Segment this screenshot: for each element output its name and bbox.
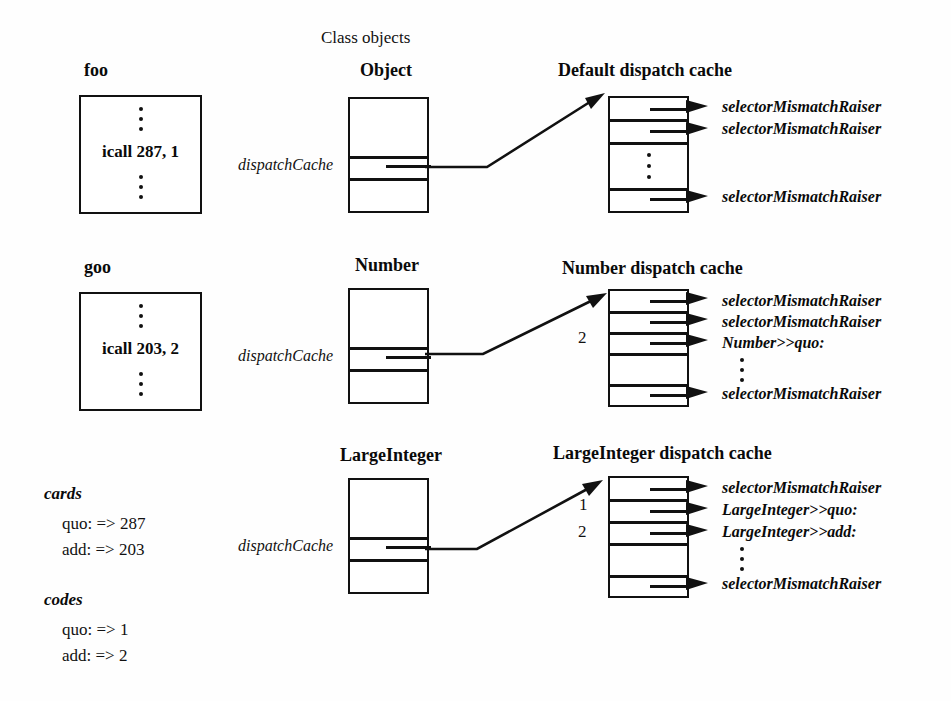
- cache-entry-stub: [650, 300, 691, 303]
- ellipsis-icon: [81, 304, 200, 328]
- ellipsis-icon: [81, 107, 200, 131]
- cache-entry-number-0: selectorMismatchRaiser: [722, 292, 881, 310]
- slot-divider-bottom: [348, 369, 429, 372]
- cache-entry-stub: [650, 130, 691, 133]
- slot-label-dispatchcache-number: dispatchCache: [238, 347, 333, 365]
- method-instruction-foo: icall 287, 1: [81, 142, 200, 162]
- ellipsis-icon: [722, 547, 792, 571]
- cache-entry-stub: [650, 585, 691, 588]
- figure-canvas: Class objects foo icall 287, 1 Object di…: [0, 0, 951, 701]
- slot-label-dispatchcache-largeinteger: dispatchCache: [238, 537, 333, 555]
- class-box-largeinteger: [348, 478, 429, 594]
- cache-entry-stub: [650, 532, 691, 535]
- method-instruction-goo: icall 203, 2: [81, 339, 200, 359]
- cache-entry-stub: [650, 321, 691, 324]
- cache-entry-stub: [650, 510, 691, 513]
- cache-row-divider: [608, 575, 689, 578]
- legend-row-cards-0: quo: => 287: [62, 514, 145, 534]
- class-box-object: [348, 97, 429, 213]
- pointer-arrow-object: [425, 88, 615, 180]
- cache-entry-stub: [650, 108, 691, 111]
- cache-row-divider: [608, 188, 689, 191]
- cache-entry-default-1: selectorMismatchRaiser: [722, 120, 881, 138]
- cache-entry-number-2: Number>>quo:: [722, 334, 825, 352]
- legend-title-cards: cards: [44, 484, 82, 504]
- method-label-goo: goo: [84, 257, 111, 278]
- cache-row-divider: [608, 119, 689, 122]
- slot-divider-bottom: [348, 178, 429, 181]
- cache-row-divider: [608, 311, 689, 314]
- cache-entry-default-0: selectorMismatchRaiser: [722, 98, 881, 116]
- legend-row-cards-1: add: => 203: [62, 540, 144, 560]
- cache-entry-default-last: selectorMismatchRaiser: [722, 188, 881, 206]
- cache-title-largeinteger: LargeInteger dispatch cache: [553, 443, 772, 464]
- legend-title-codes: codes: [44, 590, 83, 610]
- legend-row-codes-1: add: => 2: [62, 646, 127, 666]
- slot-divider-top: [348, 347, 429, 350]
- cache-entry-arrowheads-number: [686, 289, 720, 411]
- ellipsis-icon: [81, 175, 200, 199]
- slot-label-dispatchcache-object: dispatchCache: [238, 156, 333, 174]
- class-box-number: [348, 288, 429, 404]
- cache-row-divider: [608, 521, 689, 524]
- cache-index-label-largeinteger-1: 2: [578, 522, 587, 542]
- ellipsis-icon: [722, 358, 792, 382]
- cache-entry-stub: [650, 394, 691, 397]
- cache-entry-largeinteger-0: selectorMismatchRaiser: [722, 479, 881, 497]
- cache-entry-number-1: selectorMismatchRaiser: [722, 313, 881, 331]
- cache-entry-arrowheads-default: [686, 96, 720, 216]
- cache-row-divider: [608, 543, 689, 546]
- cache-entry-largeinteger-last: selectorMismatchRaiser: [722, 575, 881, 593]
- cache-entry-stub: [650, 342, 691, 345]
- cache-box-number: [608, 289, 689, 407]
- pointer-arrow-largeinteger: [425, 470, 615, 562]
- class-label-object: Object: [360, 60, 412, 81]
- class-label-largeinteger: LargeInteger: [340, 445, 442, 466]
- method-box-foo: icall 287, 1: [79, 95, 202, 214]
- cache-entry-number-last: selectorMismatchRaiser: [722, 385, 881, 403]
- cache-entry-largeinteger-1: LargeInteger>>quo:: [722, 501, 858, 519]
- method-label-foo: foo: [84, 60, 108, 81]
- cache-entry-arrowheads-largeinteger: [686, 476, 720, 602]
- cache-row-divider: [608, 499, 689, 502]
- cache-entry-stub: [650, 488, 691, 491]
- cache-index-label-number-0: 2: [578, 328, 587, 348]
- cache-row-divider: [608, 384, 689, 387]
- ellipsis-icon: [81, 372, 200, 396]
- ellipsis-icon: [610, 153, 687, 179]
- cache-row-divider: [608, 142, 689, 145]
- cache-row-divider: [608, 332, 689, 335]
- slot-divider-top: [348, 156, 429, 159]
- method-box-goo: icall 203, 2: [79, 292, 202, 411]
- pointer-arrow-number: [425, 285, 615, 367]
- cache-title-default: Default dispatch cache: [558, 60, 732, 81]
- cache-box-default: [608, 96, 689, 213]
- class-label-number: Number: [355, 255, 419, 276]
- slot-divider-bottom: [348, 559, 429, 562]
- cache-entry-stub: [650, 198, 691, 201]
- slot-divider-top: [348, 537, 429, 540]
- cache-box-largeinteger: [608, 476, 689, 598]
- legend-row-codes-0: quo: => 1: [62, 620, 128, 640]
- cache-title-number: Number dispatch cache: [562, 258, 743, 279]
- column-header-class-objects: Class objects: [321, 28, 410, 48]
- cache-index-label-largeinteger-0: 1: [579, 495, 588, 515]
- cache-entry-largeinteger-2: LargeInteger>>add:: [722, 523, 857, 541]
- cache-row-divider: [608, 353, 689, 356]
